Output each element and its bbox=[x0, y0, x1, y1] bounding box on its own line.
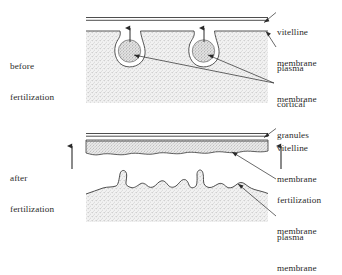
callout-bottom-vitelline-line1: vitelline bbox=[277, 143, 317, 153]
top-cytoplasm bbox=[86, 31, 268, 103]
callout-top-plasma-line1: plasma bbox=[277, 63, 317, 73]
callout-top-vitelline-line1: vitelline bbox=[277, 27, 317, 37]
cortical-granule-left bbox=[118, 40, 140, 62]
stage-label-after: after fertilization bbox=[10, 152, 54, 235]
leader-bottom-fertilization bbox=[232, 152, 276, 179]
fertilization-membrane-band bbox=[86, 140, 268, 155]
callout-top-cortical-line1: cortical bbox=[277, 99, 309, 109]
callout-bottom-fertilization-line1: fertilization bbox=[277, 195, 321, 205]
stage-label-after-line2: fertilization bbox=[10, 204, 54, 214]
leader-bottom-vitelline bbox=[264, 129, 276, 138]
callout-bottom-plasma-line2: membrane bbox=[277, 263, 317, 273]
bottom-vitelline-membrane bbox=[86, 134, 268, 137]
bottom-cytoplasm bbox=[86, 170, 268, 222]
stage-label-after-line1: after bbox=[10, 173, 54, 183]
stage-label-before-line2: fertilization bbox=[10, 92, 54, 102]
stage-label-before-line1: before bbox=[10, 61, 54, 71]
callout-bottom-plasma-membrane: plasma membrane bbox=[277, 211, 317, 275]
top-vitelline-membrane bbox=[86, 18, 268, 21]
cortical-granule-right bbox=[192, 40, 214, 62]
stage-label-before: before fertilization bbox=[10, 40, 54, 123]
callout-bottom-plasma-line1: plasma bbox=[277, 232, 317, 242]
